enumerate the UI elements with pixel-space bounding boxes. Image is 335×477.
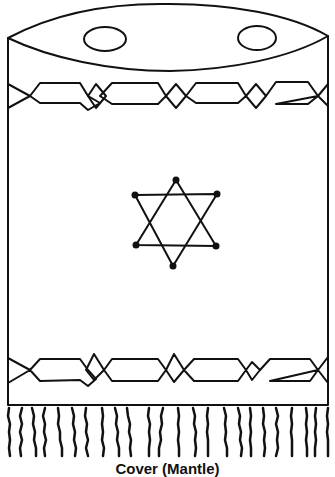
mantle-drawing: [0, 0, 335, 477]
star-of-david: [135, 180, 217, 266]
figure-caption: Cover (Mantle): [0, 461, 335, 477]
lower-border-band: [8, 354, 328, 386]
top-ellipse: [8, 4, 328, 71]
upper-border-band: [8, 82, 328, 110]
finial-hole-right: [238, 26, 276, 50]
star-dots: [132, 177, 221, 270]
fringe: [8, 408, 328, 456]
finial-hole-left: [84, 27, 126, 51]
mantle-body-outline: [8, 36, 328, 405]
